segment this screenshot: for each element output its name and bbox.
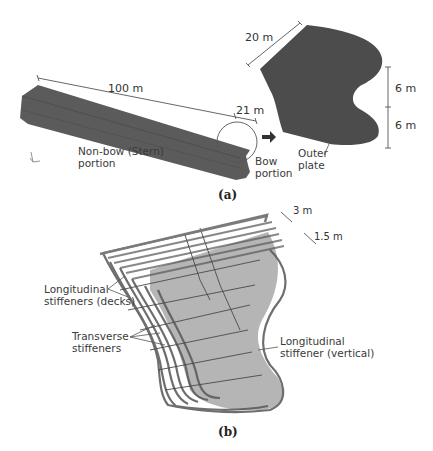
stern-label: Non-bow (Stern) portion	[78, 145, 164, 169]
long-vertical-label: Longitudinal stiffener (vertical)	[280, 335, 374, 359]
transverse-label: Transverse stiffeners	[72, 330, 129, 354]
long-vertical-line2: stiffener (vertical)	[280, 347, 374, 359]
spacing-inner-label: 1.5 m	[314, 231, 343, 242]
bow-height-lower-label: 6 m	[395, 119, 416, 132]
transverse-line2: stiffeners	[72, 342, 129, 354]
height-dimension-line	[385, 67, 391, 148]
bow-label-line2: portion	[255, 167, 293, 179]
long-decks-label: Longitudinal stiffeners (decks)	[44, 283, 135, 307]
bow-length-label: 21 m	[236, 104, 264, 117]
length-label: 100 m	[108, 82, 143, 95]
stern-label-line2: portion	[78, 157, 164, 169]
caption-a: (a)	[218, 188, 237, 202]
bow-detail-shape	[260, 25, 382, 145]
bow-label: Bow portion	[255, 155, 293, 179]
stiffener-frame	[100, 215, 285, 412]
arrow-icon	[262, 131, 276, 143]
outer-plate-line2: plate	[298, 159, 328, 171]
long-decks-line1: Longitudinal	[44, 283, 135, 295]
diagram-graphics	[0, 0, 433, 451]
outer-plate-label: Outer plate	[298, 147, 328, 171]
axis-triad-icon	[30, 152, 40, 162]
transverse-line1: Transverse	[72, 330, 129, 342]
bow-label-line1: Bow	[255, 155, 293, 167]
caption-b: (b)	[218, 425, 238, 439]
spacing-outer-label: 3 m	[293, 205, 312, 216]
bow-height-upper-label: 6 m	[395, 82, 416, 95]
long-decks-line2: stiffeners (decks)	[44, 295, 135, 307]
long-vertical-line1: Longitudinal	[280, 335, 374, 347]
bow-width-label: 20 m	[245, 31, 273, 44]
stern-label-line1: Non-bow (Stern)	[78, 145, 164, 157]
spacing-dimension-marks	[281, 212, 316, 244]
outer-plate-line1: Outer	[298, 147, 328, 159]
